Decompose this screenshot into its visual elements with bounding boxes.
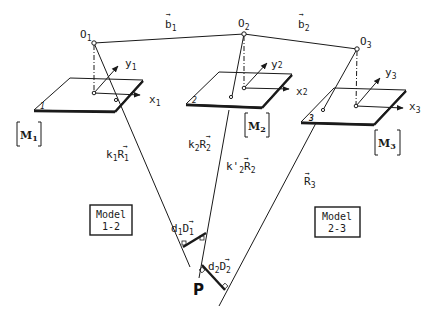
projection-center-O1	[92, 41, 96, 45]
photo-plane-2	[186, 72, 292, 108]
svg-text:M1: M1	[20, 129, 38, 143]
photogrammetry-diagram: O1 O2 O3 → b1 → b2 y1 x1 y2 x2 y3 x3 1 2…	[0, 0, 436, 318]
svg-text:Model: Model	[322, 211, 352, 222]
corner-mark-3: 3	[308, 114, 314, 123]
matrix-label-M1: M1	[17, 122, 41, 146]
projection-center-O3	[355, 47, 359, 51]
svg-text:R3: R3	[304, 175, 316, 190]
image-point-1	[114, 98, 117, 101]
matrix-label-M2: M2	[245, 113, 269, 137]
svg-text:M2: M2	[248, 120, 266, 134]
svg-text:→: →	[189, 217, 194, 226]
image-point-2	[229, 95, 232, 98]
label-x3: x3	[409, 100, 421, 115]
label-d1D1: → d1D1	[171, 217, 194, 237]
svg-text:M3: M3	[378, 137, 396, 151]
label-O2: O2	[238, 17, 250, 32]
label-d2D2: → d2D2	[208, 255, 231, 275]
label-k2R2: → k2R2	[188, 132, 211, 153]
svg-text:2-3: 2-3	[328, 223, 346, 234]
label-y1: y1	[125, 57, 137, 72]
label-O3: O3	[360, 35, 372, 50]
svg-text:→: →	[206, 132, 211, 141]
corner-mark-1: 1	[40, 102, 45, 111]
model-box-2-3: Model 2-3	[315, 207, 360, 237]
svg-text:Model: Model	[96, 209, 126, 220]
label-y2: y2	[271, 58, 283, 71]
projection-center-O2	[242, 32, 246, 36]
label-y3: y3	[385, 66, 397, 81]
base-line-b1	[94, 34, 244, 43]
label-x2: x2	[296, 85, 308, 98]
label-k1R1: → k1R1	[106, 142, 129, 163]
label-k2prime-R2: → k'2R2	[226, 154, 256, 175]
photo-plane-1	[34, 78, 143, 112]
label-R3: → R3	[304, 169, 316, 190]
label-b2: → b2	[298, 10, 310, 33]
svg-text:1-2: 1-2	[102, 221, 120, 232]
image-point-3	[321, 108, 324, 111]
label-O1: O1	[80, 28, 92, 43]
ground-point-P: P	[193, 281, 204, 299]
photo-plane-3	[301, 88, 406, 125]
matrix-label-M3: M3	[375, 130, 400, 155]
label-x1: x1	[149, 93, 161, 108]
svg-text:b1: b1	[165, 18, 177, 33]
model-box-1-2: Model 1-2	[90, 205, 132, 235]
ray-k2R2	[199, 34, 244, 278]
corner-mark-2: 2	[192, 96, 197, 105]
label-b1: → b1	[165, 10, 177, 33]
svg-text:b2: b2	[298, 18, 310, 33]
svg-text:k'2R2: k'2R2	[226, 160, 256, 175]
separation-d1D1	[182, 233, 206, 247]
base-line-b2	[244, 34, 357, 49]
